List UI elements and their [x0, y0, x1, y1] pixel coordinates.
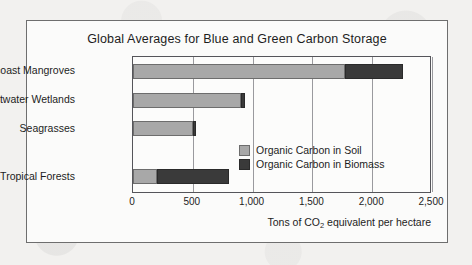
category-label: Saltwater Wetlands — [0, 93, 75, 105]
chart-legend: Organic Carbon in SoilOrganic Carbon in … — [239, 143, 384, 171]
x-tick-label: 0 — [129, 196, 135, 207]
category-label: Seacoast Mangroves — [0, 64, 75, 76]
x-tick-label: 500 — [183, 196, 200, 207]
x-axis-title-prefix: Tons of CO — [267, 216, 320, 228]
bar-segment-biomass — [345, 64, 404, 79]
x-axis-title: Tons of CO2 equivalent per hectare — [267, 216, 431, 228]
bar-segment-biomass — [193, 121, 196, 136]
legend-item: Organic Carbon in Soil — [239, 143, 384, 157]
bar-segment-biomass — [241, 93, 245, 108]
chart-figure: Global Averages for Blue and Green Carbo… — [26, 20, 448, 243]
x-axis-title-subscript: 2 — [320, 221, 324, 230]
bar-segment-soil — [133, 121, 193, 136]
bar-segment-soil — [133, 169, 157, 184]
category-label: Seagrasses — [0, 122, 75, 134]
bar-row — [133, 169, 432, 184]
x-tick-label: 2,500 — [418, 196, 443, 207]
legend-swatch — [239, 145, 250, 156]
chart-title: Global Averages for Blue and Green Carbo… — [27, 32, 447, 46]
gridline — [432, 57, 433, 192]
legend-label: Organic Carbon in Biomass — [256, 158, 384, 170]
bar-segment-soil — [133, 93, 241, 108]
x-tick-label: 1,500 — [299, 196, 324, 207]
plot-area — [132, 56, 431, 193]
category-label: Tropical Forests — [0, 170, 75, 182]
x-axis-title-suffix: equivalent per hectare — [324, 216, 431, 228]
bar-row — [133, 121, 432, 136]
bar-row — [133, 93, 432, 108]
legend-swatch — [239, 159, 250, 170]
bar-segment-soil — [133, 64, 345, 79]
bar-segment-biomass — [157, 169, 229, 184]
bar-row — [133, 64, 432, 79]
x-tick-label: 2,000 — [359, 196, 384, 207]
legend-label: Organic Carbon in Soil — [256, 144, 362, 156]
legend-item: Organic Carbon in Biomass — [239, 157, 384, 171]
x-tick-label: 1,000 — [239, 196, 264, 207]
